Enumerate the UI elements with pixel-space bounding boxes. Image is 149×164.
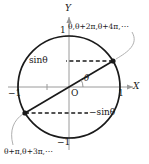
leader-line-top bbox=[116, 32, 134, 59]
angle-label: θ bbox=[84, 74, 89, 83]
y-axis-label: Y bbox=[65, 4, 71, 13]
point-marker-upper bbox=[110, 58, 115, 63]
coterminal-note-bottom: θ+π,θ+3π,⋯ bbox=[4, 148, 53, 156]
x-tick-label-negative-one: −1 bbox=[8, 89, 21, 98]
y-tick-label-negative-one: −1 bbox=[57, 138, 70, 147]
origin-label: O bbox=[71, 89, 78, 98]
sin-negative-label: −sinθ bbox=[89, 108, 115, 117]
angle-arc bbox=[81, 80, 83, 87]
coterminal-note-top: θ,θ+2π,θ+4π,⋯ bbox=[68, 23, 129, 31]
point-marker-lower bbox=[22, 110, 27, 115]
sin-positive-label: sinθ bbox=[29, 56, 48, 65]
unit-circle-sine-diagram: X Y −1 1 1 −1 O sinθ −sinθ θ θ,θ+2π,θ+4π… bbox=[0, 0, 149, 164]
y-axis bbox=[65, 17, 73, 150]
x-axis-label: X bbox=[133, 82, 139, 91]
x-tick-label-positive-one: 1 bbox=[118, 89, 124, 98]
leader-line-bottom bbox=[12, 114, 23, 145]
y-tick-label-positive-one: 1 bbox=[60, 26, 66, 35]
